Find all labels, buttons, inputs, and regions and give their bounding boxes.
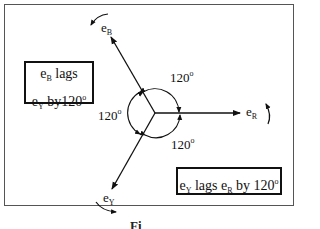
angle-arc-b-y bbox=[128, 92, 140, 134]
figure-caption: Fi bbox=[130, 218, 142, 229]
note-eb-lags-ey: eB lags eY by120o bbox=[24, 61, 94, 104]
angle-label-b-r: 120o bbox=[170, 69, 194, 86]
label-e-y: eY bbox=[103, 190, 115, 207]
phasor-e-b bbox=[111, 37, 155, 113]
angle-label-b-y: 120o bbox=[98, 107, 122, 124]
note-ey-lags-er: eY lags eR by 120o bbox=[176, 167, 282, 195]
note-left-line2: eY by120o bbox=[26, 88, 92, 116]
label-e-r: eR bbox=[246, 104, 257, 121]
phasor-e-y bbox=[112, 113, 155, 189]
angle-arc-y-r bbox=[145, 115, 180, 138]
note-left-line1: eB lags bbox=[26, 64, 92, 88]
angle-label-y-r: 120o bbox=[171, 136, 195, 153]
rotation-arrow-r-icon bbox=[266, 104, 270, 124]
label-e-b: eB bbox=[101, 20, 112, 37]
